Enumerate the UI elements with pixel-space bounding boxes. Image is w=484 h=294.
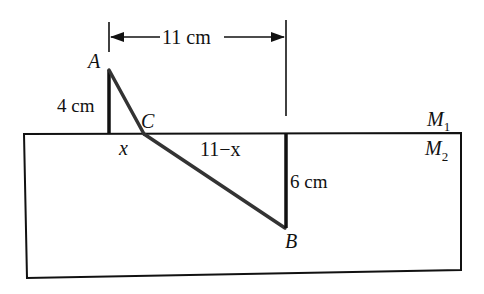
dimension-label: 11 cm xyxy=(162,26,211,48)
right-base-label: 11−x xyxy=(200,138,241,160)
refraction-diagram: 11 cm A C B 4 cm 6 cm x 11−x M1 M2 xyxy=(0,0,484,294)
point-b-label: B xyxy=(285,230,297,252)
left-height-label: 4 cm xyxy=(57,95,95,116)
medium-boundary-rect xyxy=(24,133,461,278)
arrowhead-right-icon xyxy=(271,32,285,42)
arrowhead-left-icon xyxy=(110,32,124,42)
medium-1-label: M1 xyxy=(426,108,450,134)
right-height-label: 6 cm xyxy=(290,171,328,192)
point-a-label: A xyxy=(86,50,101,72)
medium-2-label: M2 xyxy=(424,137,448,164)
ray-ac xyxy=(109,70,144,134)
left-base-label: x xyxy=(118,137,128,159)
point-c-label: C xyxy=(141,110,155,132)
